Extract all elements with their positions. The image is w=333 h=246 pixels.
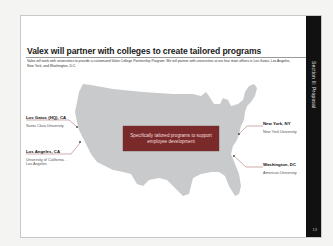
section-sidebar: Section II: Proposal 13 [306,16,321,237]
program-callout: Specifically tailored programs to suppor… [123,126,219,151]
location-city: Los Angeles, CA [26,149,70,154]
location-los-angeles: Los Angeles, CA University of California… [26,149,70,167]
callout-text: Specifically tailored programs to suppor… [127,133,215,144]
location-university: American University [263,171,307,176]
location-university: University of California - Los Angeles [26,158,70,167]
location-university: Santa Clara University [26,124,72,129]
location-university: New York University [263,130,307,135]
location-divider [263,127,307,128]
location-city: New York, NY [263,121,307,126]
location-los-gatos: Los Gatos (HQ), CA Santa Clara Universit… [26,115,72,128]
slide: Valex will partner with colleges to crea… [20,15,322,238]
location-divider [26,155,70,156]
location-divider [263,168,307,169]
location-new-york: New York, NY New York University [263,121,307,134]
location-washington: Washington, DC American University [263,162,307,175]
section-label: Section II: Proposal [309,61,318,141]
location-divider [26,121,72,122]
location-city: Washington, DC [263,162,307,167]
location-city: Los Gatos (HQ), CA [26,115,72,120]
page-number: 13 [313,227,317,232]
